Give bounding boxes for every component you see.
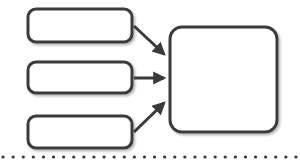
input-box-top[interactable] <box>28 9 132 42</box>
input-box-middle[interactable] <box>28 62 132 93</box>
output-box[interactable] <box>170 27 277 132</box>
arrow-top-to-output <box>134 26 164 54</box>
flowchart-graphic <box>0 0 300 168</box>
arrow-bottom-to-output <box>134 103 164 132</box>
connectors-group <box>134 26 164 132</box>
input-nodes-group <box>28 9 132 148</box>
output-node-group <box>170 27 277 132</box>
input-box-bottom[interactable] <box>28 116 132 148</box>
diagram-canvas <box>0 0 300 168</box>
